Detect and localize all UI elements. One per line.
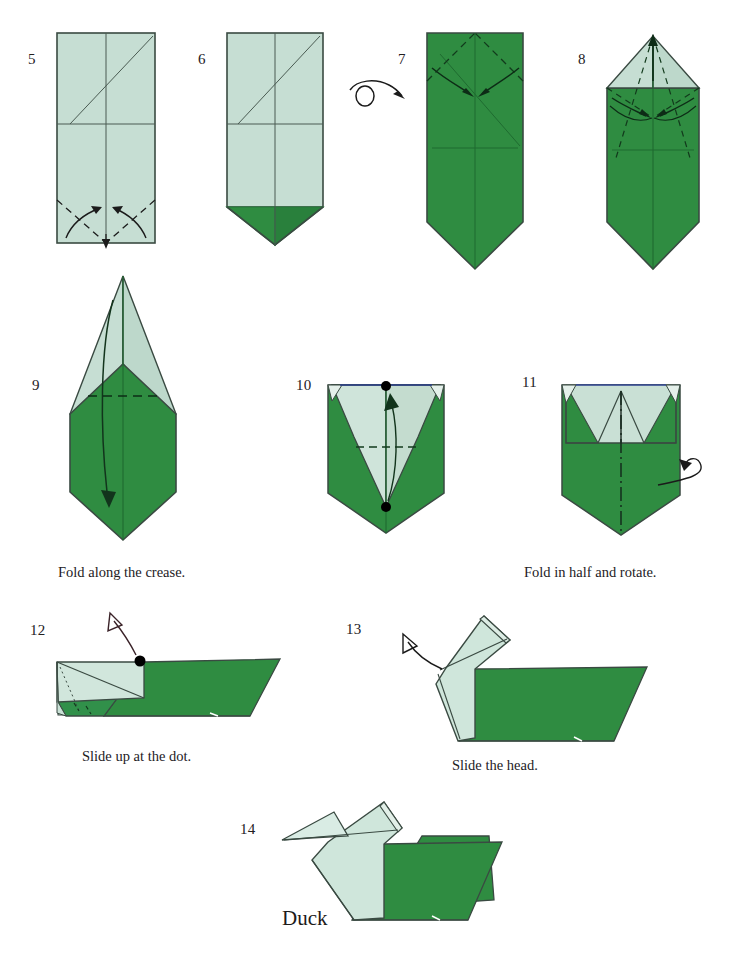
figure-step-10 (306, 375, 466, 545)
step-number-6: 6 (198, 52, 206, 67)
model-title: Duck (282, 908, 328, 929)
dot-marker-bottom (381, 502, 391, 512)
dot-marker (135, 656, 146, 667)
step-number-11: 11 (522, 375, 537, 390)
slide-arrow (114, 621, 136, 655)
slide-arrow (408, 642, 442, 669)
turn-over-icon (345, 70, 409, 118)
caption-step-9: Fold along the crease. (58, 565, 185, 580)
figure-step-9 (60, 268, 240, 548)
step-number-14: 14 (240, 822, 256, 837)
figure-step-13 (370, 598, 670, 748)
flap-top-right-light (653, 36, 699, 88)
figure-step-8 (598, 26, 718, 256)
rotate-behind-arrow-head (679, 459, 692, 471)
turn-over-arrow-head (393, 91, 405, 99)
step-number-5: 5 (28, 52, 36, 67)
fold-arrow-center-head (102, 239, 110, 249)
figure-step-5 (50, 26, 170, 256)
body-dark (459, 667, 647, 741)
figure-step-6 (220, 26, 340, 256)
figure-step-7 (420, 26, 540, 256)
caption-step-12: Slide up at the dot. (82, 749, 191, 764)
step-number-9: 9 (32, 378, 40, 393)
turn-over-circle (356, 86, 374, 106)
figure-step-11 (540, 375, 720, 550)
flap-top-left-light (607, 36, 653, 88)
dot-marker-top (381, 381, 391, 391)
caption-step-13: Slide the head. (452, 758, 538, 773)
caption-step-11: Fold in half and rotate. (524, 565, 656, 580)
step-number-7: 7 (398, 52, 406, 67)
figure-step-12 (30, 605, 320, 735)
step-number-8: 8 (578, 52, 586, 67)
origami-instruction-page: 5 6 (0, 0, 736, 978)
step-number-13: 13 (346, 622, 362, 637)
